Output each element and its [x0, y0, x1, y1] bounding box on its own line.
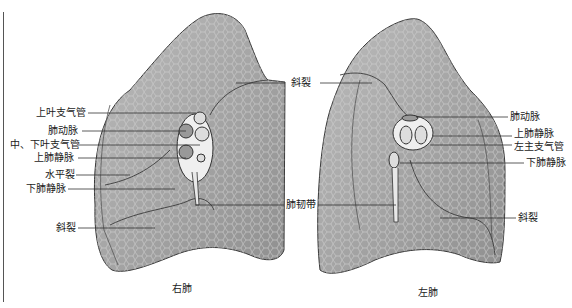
label-right-middle-lower-lobe-bronchus: 中、下叶支气管	[10, 139, 80, 151]
label-pulmonary-ligament: 肺韧带	[286, 199, 316, 211]
right-lung-drawing	[94, 14, 285, 272]
label-right-oblique-fissure: 斜裂	[56, 222, 76, 234]
caption-right-lung: 右肺	[172, 280, 192, 295]
label-center-oblique-fissure: 斜裂	[291, 77, 311, 89]
label-left-pulmonary-artery: 肺动脉	[510, 111, 540, 123]
label-right-superior-pulmonary-vein: 上肺静脉	[34, 152, 74, 164]
label-right-upper-lobe-bronchus: 上叶支气管	[36, 107, 86, 119]
label-left-inferior-pulmonary-vein: 下肺静脉	[526, 157, 566, 169]
caption-left-lung: 左肺	[418, 284, 438, 299]
left-lung-drawing	[318, 19, 505, 274]
lung-illustration	[0, 0, 572, 308]
label-right-horizontal-fissure: 水平裂	[45, 169, 75, 181]
label-left-main-bronchus: 左主支气管	[514, 141, 564, 153]
label-left-superior-pulmonary-vein: 上肺静脉	[514, 128, 554, 140]
label-right-pulmonary-artery: 肺动脉	[48, 125, 78, 137]
label-left-oblique-fissure: 斜裂	[518, 212, 538, 224]
label-right-inferior-pulmonary-vein: 下肺静脉	[26, 183, 66, 195]
